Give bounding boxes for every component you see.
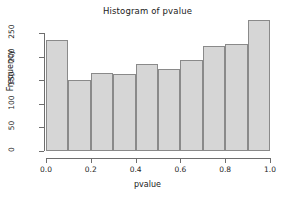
x-axis-tick-label: 0.2 <box>80 165 102 174</box>
histogram-bar <box>113 74 135 151</box>
y-axis-tick <box>39 127 44 128</box>
histogram-bar <box>46 40 68 151</box>
y-axis-tick <box>39 80 44 81</box>
y-axis-tick-label: 50 <box>7 115 16 137</box>
chart-title: Histogram of pvalue <box>0 6 295 16</box>
histogram-bar <box>203 46 225 151</box>
y-axis-tick-label: 0 <box>7 139 16 161</box>
y-axis-tick <box>39 33 44 34</box>
histogram-bar <box>136 64 158 151</box>
x-axis-tick <box>91 158 92 163</box>
y-axis-tick <box>39 104 44 105</box>
x-axis-line <box>46 158 270 159</box>
y-axis-line <box>44 33 45 151</box>
histogram-bar <box>180 60 202 151</box>
x-axis-tick <box>225 158 226 163</box>
y-axis-title: Frequency <box>6 39 15 103</box>
x-axis-tick-label: 0.8 <box>214 165 236 174</box>
x-axis-tick <box>136 158 137 163</box>
histogram-bar <box>225 44 247 151</box>
x-axis-tick <box>46 158 47 163</box>
histogram-bar <box>68 80 90 151</box>
y-axis-tick <box>39 151 44 152</box>
x-axis-tick-label: 0.0 <box>35 165 57 174</box>
y-axis-tick <box>39 57 44 58</box>
x-axis-tick-label: 0.4 <box>125 165 147 174</box>
x-axis-tick <box>180 158 181 163</box>
plot-area <box>46 20 270 151</box>
x-axis-tick <box>270 158 271 163</box>
histogram-plot: Histogram of pvalue 050100150200250 Freq… <box>0 0 295 199</box>
x-axis-title: pvalue <box>0 180 295 189</box>
histogram-bar <box>158 69 180 151</box>
histogram-bar <box>91 73 113 151</box>
x-axis-tick-label: 1.0 <box>259 165 281 174</box>
histogram-bar <box>248 20 270 151</box>
x-axis-tick-label: 0.6 <box>169 165 191 174</box>
